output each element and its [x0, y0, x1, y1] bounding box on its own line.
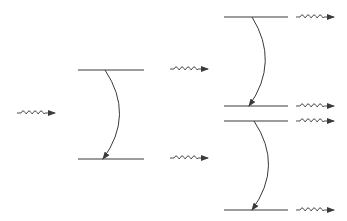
photon-wave-icon-incident-photon	[17, 111, 55, 114]
energy-level-diagram	[0, 0, 347, 221]
photon-wave-icon-stage1-lower-photon	[170, 156, 208, 159]
photon-arrows	[17, 15, 334, 211]
transition-arrow-stage2b-decay	[252, 121, 269, 210]
energy-levels	[78, 17, 288, 210]
photon-wave-icon-stage2a-lower-photon	[296, 104, 334, 107]
decay-transitions	[103, 17, 269, 210]
photon-wave-icon-stage2b-lower-photon	[296, 208, 334, 211]
photon-wave-icon-stage2b-upper-photon	[296, 119, 334, 122]
photon-wave-icon-stage2a-upper-photon	[296, 15, 334, 18]
transition-arrow-stage1-decay	[103, 70, 120, 159]
photon-wave-icon-stage1-upper-photon	[170, 67, 208, 70]
transition-arrow-stage2a-decay	[249, 17, 265, 106]
